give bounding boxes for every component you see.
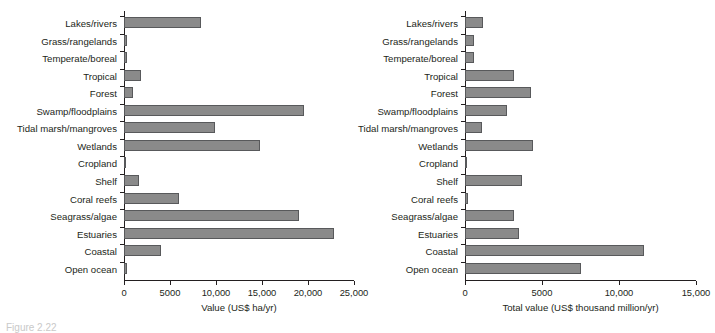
bar: [465, 87, 531, 98]
x-axis-tick-label: 5000: [512, 287, 572, 298]
plot-area-left: 0500010,00015,00020,00025,000: [0, 0, 360, 331]
bar: [465, 228, 519, 239]
bar: [124, 122, 215, 133]
x-axis-tick: [170, 281, 171, 285]
x-axis-tick-label: 10,000: [589, 287, 649, 298]
bar: [465, 210, 514, 221]
bar: [465, 52, 474, 63]
bar: [124, 87, 133, 98]
figure-caption: Figure 2.22: [6, 322, 57, 333]
x-axis-title-left: Value (US$ ha/yr): [99, 302, 379, 314]
bar: [465, 122, 482, 133]
bar: [124, 35, 127, 46]
x-axis-title-right: Total value (US$ thousand million/yr): [441, 302, 715, 314]
x-axis-tick: [465, 281, 466, 285]
x-axis-tick: [308, 281, 309, 285]
bar: [465, 105, 507, 116]
plot-area-right: 0500010,00015,000: [349, 0, 709, 331]
bar: [124, 140, 260, 151]
x-axis-tick: [124, 281, 125, 285]
x-axis-tick-label: 0: [435, 287, 495, 298]
chart-panel-left: Lakes/riversGrass/rangelandsTemperate/bo…: [0, 0, 360, 331]
bar: [465, 193, 468, 204]
x-axis-tick: [696, 281, 697, 285]
bar: [124, 228, 334, 239]
x-axis-line: [465, 280, 696, 281]
x-axis-tick-label: 15,000: [666, 287, 715, 298]
x-axis-line: [124, 280, 354, 281]
bar: [124, 210, 299, 221]
bar: [124, 17, 201, 28]
x-axis-tick: [262, 281, 263, 285]
bar: [465, 157, 467, 168]
x-axis-tick: [542, 281, 543, 285]
bar: [465, 263, 581, 274]
bar: [465, 140, 533, 151]
x-axis-tick: [619, 281, 620, 285]
bar: [465, 35, 474, 46]
bar: [124, 245, 161, 256]
chart-panel-right: Lakes/riversGrass/rangelandsTemperate/bo…: [349, 0, 709, 331]
bar: [124, 70, 141, 81]
bar: [465, 245, 644, 256]
bar: [124, 263, 127, 274]
bar: [465, 175, 522, 186]
bar: [124, 52, 127, 63]
bar: [124, 105, 304, 116]
x-axis-tick: [216, 281, 217, 285]
bar: [465, 70, 514, 81]
bar: [124, 193, 179, 204]
bar: [465, 17, 483, 28]
bar: [124, 157, 126, 168]
bar: [124, 175, 139, 186]
